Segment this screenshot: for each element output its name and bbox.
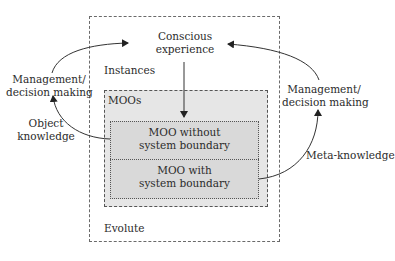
object-knowledge-label: Object knowledge [16, 117, 76, 143]
moo-with-boundary: MOO with system boundary [110, 164, 259, 190]
moo-without-line1: MOO without [110, 126, 259, 139]
moo-with-line1: MOO with [110, 164, 259, 177]
object-knowledge-line1: Object [16, 117, 76, 130]
conscious-experience-line1: Conscious [150, 30, 220, 43]
right-mgmt-to-experience-arrow [228, 44, 319, 80]
left-management-label: Management/ decision making [6, 73, 92, 99]
conscious-experience-label: Conscious experience [150, 30, 220, 56]
meta-knowledge-arrow [259, 110, 318, 179]
right-management-line1: Management/ [282, 83, 366, 96]
object-knowledge-line2: knowledge [16, 130, 76, 143]
right-management-line2: decision making [282, 96, 366, 109]
moos-label: MOOs [108, 94, 141, 107]
instances-label: Instances [104, 64, 155, 77]
conscious-experience-line2: experience [150, 43, 220, 56]
moo-without-boundary: MOO without system boundary [110, 126, 259, 152]
moo-with-line2: system boundary [110, 177, 259, 190]
right-management-label: Management/ decision making [282, 83, 366, 109]
left-management-line1: Management/ [6, 73, 92, 86]
evolute-label: Evolute [104, 222, 144, 235]
left-management-line2: decision making [6, 86, 92, 99]
meta-knowledge-label: Meta-knowledge [306, 149, 395, 162]
moo-without-line2: system boundary [110, 139, 259, 152]
